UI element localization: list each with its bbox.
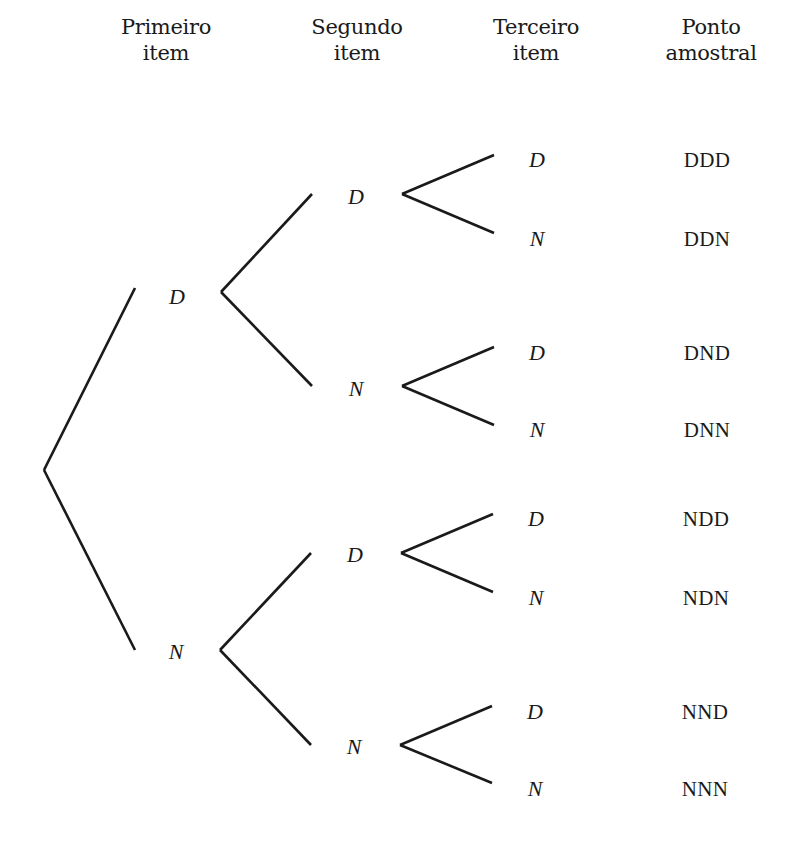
header-second-item-line1: Segundo (311, 14, 402, 40)
header-sample-point-line1: Ponto (665, 14, 756, 40)
tree-edges (0, 0, 798, 845)
level1-node-n: N (169, 640, 184, 664)
level3-node-dnn: N (530, 418, 545, 442)
sample-point-ndn: NDN (683, 586, 729, 610)
header-second-item: Segundo item (311, 14, 402, 66)
level3-node-nnn: N (528, 777, 543, 801)
header-third-item-line1: Terceiro (493, 14, 579, 40)
level3-node-dnd: D (529, 341, 545, 365)
header-first-item-line1: Primeiro (121, 14, 211, 40)
header-third-item: Terceiro item (493, 14, 579, 66)
level2-node-dd: D (348, 185, 364, 209)
level3-node-ddd: D (529, 148, 545, 172)
sample-point-nnd: NND (682, 700, 728, 724)
tree-branch-line (220, 650, 311, 745)
header-sample-point-line2: amostral (665, 40, 756, 66)
tree-branch-line (401, 514, 493, 553)
tree-branch-line (402, 194, 494, 233)
tree-branch-line (44, 470, 135, 650)
header-first-item-line2: item (121, 40, 211, 66)
tree-branch-line (402, 155, 494, 194)
tree-branch-line (402, 347, 494, 386)
tree-branch-line (221, 292, 312, 386)
level1-node-d: D (169, 285, 185, 309)
tree-branch-line (400, 745, 492, 783)
sample-point-dnn: DNN (684, 418, 730, 442)
tree-branch-line (400, 706, 492, 745)
sample-point-ddd: DDD (684, 148, 730, 172)
sample-point-ddn: DDN (684, 227, 730, 251)
level3-node-ddn: N (530, 227, 545, 251)
sample-point-dnd: DND (684, 341, 730, 365)
tree-branch-line (44, 288, 135, 470)
tree-branch-line (221, 194, 312, 292)
tree-branch-line (402, 386, 494, 425)
probability-tree-diagram: Primeiro item Segundo item Terceiro item… (0, 0, 798, 845)
level2-node-nd: D (347, 543, 363, 567)
header-second-item-line2: item (311, 40, 402, 66)
level3-node-nnd: D (527, 700, 543, 724)
header-sample-point: Ponto amostral (665, 14, 756, 66)
level2-node-nn: N (347, 735, 362, 759)
sample-point-nnn: NNN (682, 777, 728, 801)
level3-node-ndd: D (528, 507, 544, 531)
header-first-item: Primeiro item (121, 14, 211, 66)
tree-branch-line (220, 553, 311, 650)
header-third-item-line2: item (493, 40, 579, 66)
tree-branch-line (401, 553, 493, 592)
sample-point-ndd: NDD (683, 507, 729, 531)
level2-node-dn: N (349, 377, 364, 401)
level3-node-ndn: N (529, 586, 544, 610)
